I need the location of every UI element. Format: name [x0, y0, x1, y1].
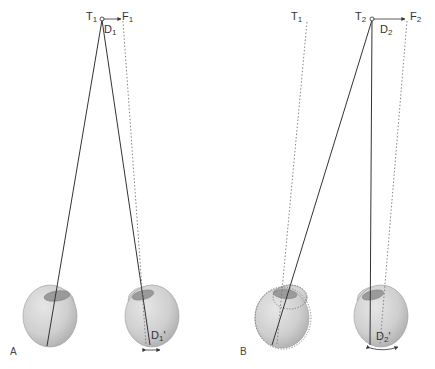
visual-axis-left-a [47, 20, 102, 346]
panel-label-b: B [240, 346, 247, 357]
diagram-canvas [0, 0, 435, 369]
label-d1-a: D1 [104, 24, 116, 38]
label-t1-a: T1 [86, 11, 97, 25]
label-f1-a: F1 [122, 11, 133, 25]
label-d2-prime-b: D2' [376, 331, 391, 345]
target-point-a [100, 17, 104, 21]
visual-axis-right-a [102, 20, 150, 345]
eye-left-a [23, 285, 77, 347]
retinal-disparity-arrow-b [370, 347, 398, 350]
label-f2-b: F2 [410, 11, 421, 25]
label-t2-b: T2 [355, 11, 366, 25]
target-point-b [370, 17, 374, 21]
label-d2-b: D2 [380, 24, 392, 38]
visual-axis-left-b [272, 20, 372, 345]
panel-label-a: A [10, 346, 17, 357]
label-t1-b: T1 [291, 11, 302, 25]
label-d1-prime-a: D1' [151, 330, 166, 344]
